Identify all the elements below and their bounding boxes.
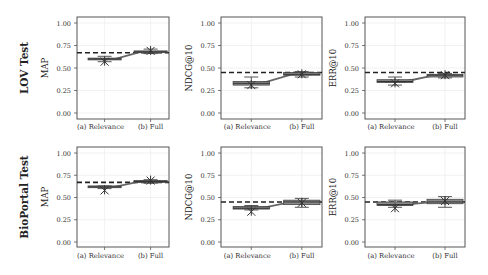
y-tick-label: 0.75 (57, 42, 71, 50)
y-tick-label: 0.75 (201, 42, 215, 50)
subplot-ndcg10-lov: 0.000.250.500.751.00(a) Relevance(b) Ful… (184, 17, 322, 131)
y-tick-label: 0.75 (201, 172, 215, 180)
chart-canvas: LOV TestBioPortal Test0.000.250.500.751.… (0, 0, 488, 275)
y-tick-label: 0.00 (345, 110, 359, 118)
star-marker-icon (147, 46, 155, 55)
y-axis-label: MAP (40, 57, 50, 78)
y-axis-label: NDCG@10 (184, 174, 194, 221)
y-tick-label: 0.25 (345, 216, 359, 224)
subplot-err10-bioportal: 0.000.250.500.751.00(a) Relevance(b) Ful… (328, 147, 465, 260)
x-tick-label: (a) Relevance (368, 252, 415, 260)
y-tick-label: 0.50 (57, 65, 71, 73)
x-tick-label: (b) Full (138, 123, 163, 131)
y-tick-label: 0.25 (201, 216, 215, 224)
y-tick-label: 0.25 (201, 87, 215, 95)
y-axis-label: MAP (40, 186, 50, 207)
subplot-ndcg10-bioportal: 0.000.250.500.751.00(a) Relevance(b) Ful… (184, 147, 322, 260)
axes-frame (221, 147, 322, 247)
y-tick-label: 1.00 (57, 20, 71, 28)
box-plot-grid-figure: LOV TestBioPortal Test0.000.250.500.751.… (0, 0, 488, 275)
y-tick-label: 1.00 (201, 150, 215, 158)
x-tick-label: (a) Relevance (77, 123, 124, 131)
subplot-err10-lov: 0.000.250.500.751.00(a) Relevance(b) Ful… (328, 17, 465, 131)
row-label: BioPortal Test (18, 155, 30, 239)
y-axis-label: ERR@10 (328, 178, 338, 216)
y-axis-label: ERR@10 (328, 49, 338, 87)
x-tick-label: (b) Full (432, 252, 457, 260)
x-tick-label: (b) Full (138, 252, 163, 260)
y-tick-label: 1.00 (57, 150, 71, 158)
subplot-map-bioportal: 0.000.250.500.751.00(a) Relevance(b) Ful… (40, 147, 169, 260)
y-tick-label: 0.50 (345, 65, 359, 73)
y-tick-label: 0.50 (201, 65, 215, 73)
subplot-map-lov: 0.000.250.500.751.00(a) Relevance(b) Ful… (40, 17, 169, 131)
x-tick-label: (a) Relevance (368, 123, 415, 131)
y-tick-label: 0.50 (57, 194, 71, 202)
x-tick-label: (b) Full (289, 123, 314, 131)
y-tick-label: 0.00 (57, 239, 71, 247)
row-label: LOV Test (18, 42, 30, 94)
x-tick-label: (b) Full (432, 123, 457, 131)
y-tick-label: 0.25 (57, 216, 71, 224)
x-tick-label: (a) Relevance (224, 252, 271, 260)
y-tick-label: 0.75 (345, 42, 359, 50)
x-tick-label: (a) Relevance (224, 123, 271, 131)
y-tick-label: 0.00 (201, 239, 215, 247)
y-axis-label: NDCG@10 (184, 45, 194, 92)
y-tick-label: 0.75 (345, 172, 359, 180)
axes-frame (77, 147, 169, 247)
y-tick-label: 0.50 (345, 194, 359, 202)
y-tick-label: 1.00 (345, 20, 359, 28)
x-tick-label: (b) Full (289, 252, 314, 260)
y-tick-label: 1.00 (345, 150, 359, 158)
y-tick-label: 0.25 (57, 87, 71, 95)
y-tick-label: 0.00 (57, 110, 71, 118)
y-tick-label: 0.00 (345, 239, 359, 247)
y-tick-label: 0.50 (201, 194, 215, 202)
y-tick-label: 1.00 (201, 20, 215, 28)
y-tick-label: 0.75 (57, 172, 71, 180)
y-tick-label: 0.00 (201, 110, 215, 118)
x-tick-label: (a) Relevance (77, 252, 124, 260)
y-tick-label: 0.25 (345, 87, 359, 95)
